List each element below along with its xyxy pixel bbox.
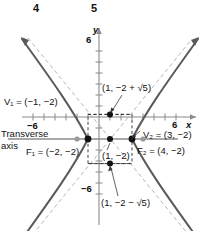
- focus-1-point: [74, 136, 79, 141]
- vertex-2-label: V₂ = (3, −2): [143, 129, 192, 140]
- center-point: [107, 136, 113, 142]
- conjugate-upper-point: [107, 111, 113, 117]
- vertex-1-label: V₁ = (−1, −2): [4, 96, 58, 107]
- conjugate-upper-label: (1, −2 + √5): [102, 82, 151, 93]
- vertex-1-point: [85, 136, 92, 143]
- y-tick-label-6: 6: [86, 35, 91, 45]
- transverse-axis-label-line2: axis: [1, 140, 18, 151]
- conjugate-lower-label: (1, −2 − √5): [101, 197, 150, 208]
- focus-1-label: F₁ = (−2, −2): [26, 146, 79, 157]
- y-tick-label-neg6: −6: [81, 184, 92, 194]
- coordinate-axes: [22, 28, 196, 225]
- transverse-axis-label-line1: Transverse: [1, 128, 48, 139]
- hyperbola-figure: 4 5: [0, 0, 204, 231]
- focus-2-label: F₂ = (4, −2): [137, 145, 185, 156]
- y-axis-label: y: [93, 25, 98, 35]
- center-label: (1, −2): [102, 150, 130, 161]
